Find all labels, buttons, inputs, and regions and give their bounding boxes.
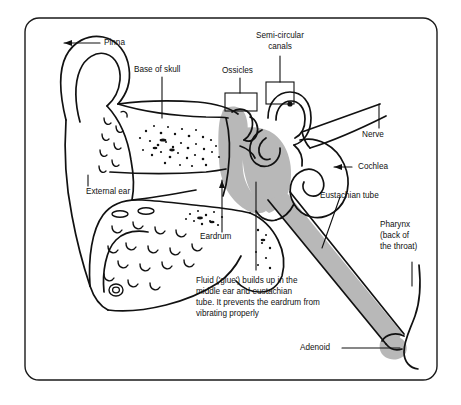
label-pinna: Pinna [104,38,125,47]
label-pharynx-line1: Pharynx [380,220,410,229]
label-nerve: Nerve [362,130,384,139]
caption-line-1: Fluid ('glue') builds up in the [196,276,298,285]
label-adenoid: Adenoid [300,343,330,352]
ear-diagram-figure: Pinna Base of skull Ossicles Semi-circul… [0,0,461,405]
label-semi-circular-canals-line1: Semi-circular [256,31,304,40]
label-base-of-skull: Base of skull [134,65,181,74]
caption-line-3: tube. It prevents the eardrum from [196,298,320,307]
label-semi-circular-canals-line2: canals [268,42,292,51]
label-eustachian-tube: Eustachian tube [320,191,379,200]
label-pharynx-line3: the throat) [380,242,418,251]
label-eardrum: Eardrum [200,232,232,241]
label-external-ear: External ear [86,187,130,196]
caption-line-4: vibrating properly [196,309,260,318]
label-cochlea: Cochlea [358,162,388,171]
label-pharynx-line2: (back of [380,231,410,240]
caption-line-2: middle ear and eustachian [196,287,292,296]
label-ossicles: Ossicles [222,66,253,75]
